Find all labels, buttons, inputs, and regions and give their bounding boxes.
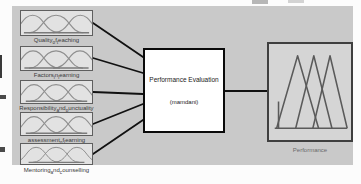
input-variable-box-5[interactable] [20,143,93,165]
fis-diagram: Qualityofteaching Factorsinlearning Resp… [0,0,361,184]
edge-artifact [0,95,6,99]
membership-curves-icon [21,11,92,35]
input-variable-label-1: Qualityofteaching [0,37,113,46]
output-variable-box[interactable] [267,42,353,142]
input-variable-box-2[interactable] [20,46,93,71]
input-variable-box-4[interactable] [20,112,93,136]
membership-curves-icon [21,47,92,70]
edge-artifact [288,0,304,3]
triangle-mf-icon [269,44,351,140]
output-variable-label: Performance [267,147,353,153]
input-variable-box-3[interactable] [20,80,93,104]
input-variable-label-5: Mentoringandcounselling [0,167,113,176]
system-box[interactable]: Performance Evaluation (mamdani) [143,48,225,133]
system-title: Performance Evaluation [149,76,218,83]
membership-curves-icon [21,81,92,103]
edge-artifact [252,0,268,4]
system-inference-type: (mamdani) [170,99,199,105]
membership-curves-icon [21,144,92,164]
edge-artifact [0,55,2,78]
membership-curves-icon [21,113,92,135]
input-variable-box-1[interactable] [20,10,93,36]
edge-artifact [0,147,5,152]
